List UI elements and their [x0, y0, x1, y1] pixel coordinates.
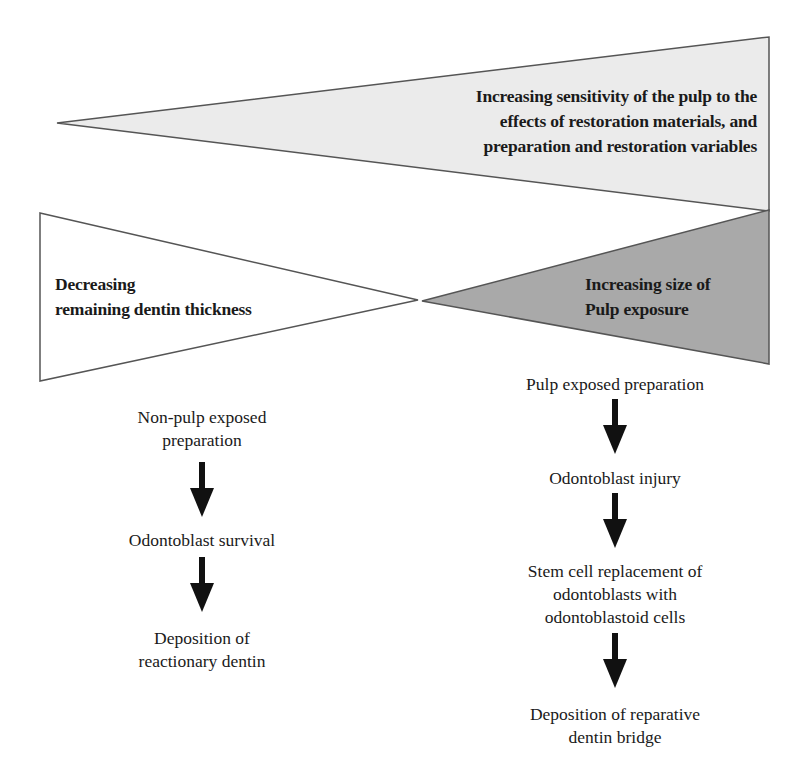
left-wedge-label-line: Decreasing: [55, 272, 252, 297]
down-arrow-icon: [603, 399, 627, 454]
down-arrow-icon: [603, 493, 627, 548]
top-wedge-label-line: Increasing sensitivity of the pulp to th…: [476, 84, 757, 109]
flow-step-line: preparation: [82, 429, 322, 452]
right-wedge-label: Increasing size of Pulp exposure: [585, 272, 710, 322]
down-arrow-icon: [190, 557, 214, 612]
right-wedge-label-line: Increasing size of: [585, 272, 710, 297]
flow-step-line: reactionary dentin: [82, 650, 322, 673]
top-wedge-label-line: preparation and restoration variables: [476, 134, 757, 159]
left-flow-step-1: Non-pulp exposed preparation: [82, 406, 322, 452]
right-flow-step-1: Pulp exposed preparation: [495, 373, 735, 396]
flow-step-line: Odontoblast survival: [82, 529, 322, 552]
flow-step-line: Odontoblast injury: [495, 467, 735, 490]
flow-step-line: dentin bridge: [495, 726, 735, 749]
left-wedge-label-line: remaining dentin thickness: [55, 297, 252, 322]
flow-step-line: odontoblastoid cells: [495, 606, 735, 629]
flow-step-line: Deposition of reparative: [495, 703, 735, 726]
left-flow-step-2: Odontoblast survival: [82, 529, 322, 552]
down-arrow-icon: [190, 462, 214, 517]
top-wedge-label-line: effects of restoration materials, and: [476, 109, 757, 134]
left-wedge-label: Decreasing remaining dentin thickness: [55, 272, 252, 322]
flow-step-line: Non-pulp exposed: [82, 406, 322, 429]
flow-step-line: Pulp exposed preparation: [495, 373, 735, 396]
right-flow-step-2: Odontoblast injury: [495, 467, 735, 490]
right-flow-step-3: Stem cell replacement of odontoblasts wi…: [495, 560, 735, 629]
top-wedge-label: Increasing sensitivity of the pulp to th…: [476, 84, 757, 159]
flow-step-line: Deposition of: [82, 627, 322, 650]
right-wedge-label-line: Pulp exposure: [585, 297, 710, 322]
down-arrow-icon: [603, 633, 627, 688]
right-flow-step-4: Deposition of reparative dentin bridge: [495, 703, 735, 749]
flow-step-line: Stem cell replacement of: [495, 560, 735, 583]
flow-step-line: odontoblasts with: [495, 583, 735, 606]
left-flow-step-3: Deposition of reactionary dentin: [82, 627, 322, 673]
